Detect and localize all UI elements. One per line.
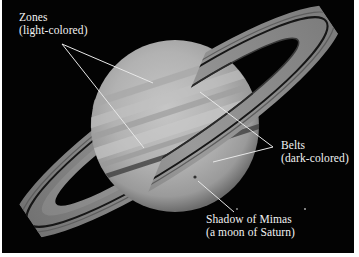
saturn-illustration	[2, 0, 354, 253]
saturn-figure: Zones (light-colored) Belts (dark-colore…	[2, 0, 354, 253]
zones-title: Zones	[19, 11, 88, 24]
mimas-title: Shadow of Mimas	[206, 213, 295, 226]
zones-subtitle: (light-colored)	[19, 24, 88, 37]
mimas-shadow	[193, 175, 196, 178]
mimas-label: Shadow of Mimas (a moon of Saturn)	[206, 213, 295, 239]
star	[304, 208, 306, 210]
belts-title: Belts	[281, 139, 349, 152]
belts-subtitle: (dark-colored)	[281, 152, 349, 165]
belts-label: Belts (dark-colored)	[281, 139, 349, 165]
zones-label: Zones (light-colored)	[19, 11, 88, 37]
mimas-subtitle: (a moon of Saturn)	[206, 226, 295, 239]
star	[236, 208, 238, 210]
